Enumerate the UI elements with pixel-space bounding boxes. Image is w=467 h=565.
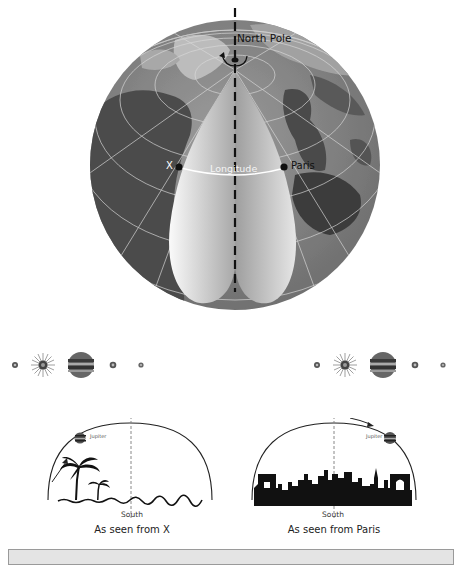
jupiter-icon <box>75 433 87 444</box>
moon-callisto-icon <box>138 362 143 367</box>
caption-paris: As seen from Paris <box>284 524 384 535</box>
jupiter-label: Jupiter <box>90 433 106 439</box>
motion-arrow-icon <box>350 418 370 424</box>
paris-skyline-icon <box>254 468 412 506</box>
jupiter-label: Jupiter <box>366 433 382 439</box>
longitude-label: Longitude <box>210 163 257 174</box>
sky-view-x: Jupiter <box>40 418 220 518</box>
moon-io-icon <box>314 362 320 368</box>
planet-row-right <box>302 350 462 380</box>
sun-flare-icon <box>31 353 55 377</box>
south-label-x: South <box>112 510 152 519</box>
palm-trees-icon <box>60 457 110 500</box>
bottom-panel <box>8 549 454 565</box>
jupiter-icon <box>68 352 94 378</box>
point-x-marker <box>175 163 182 170</box>
jupiter-icon <box>370 352 396 378</box>
moon-europa-icon <box>110 362 117 369</box>
ground-line <box>58 495 202 506</box>
point-paris-label: Paris <box>291 160 315 171</box>
sky-view-paris: Jupiter <box>248 418 428 518</box>
sun-flare-icon <box>333 353 357 377</box>
point-paris-marker <box>280 163 287 170</box>
moon-callisto-icon <box>440 362 445 367</box>
moon-io-icon <box>12 362 18 368</box>
jupiter-icon <box>384 432 396 444</box>
moon-europa-icon <box>412 362 419 369</box>
sky-dome <box>48 423 212 500</box>
point-x-label: X <box>166 160 173 171</box>
north-pole-label: North Pole <box>237 32 291 44</box>
caption-x: As seen from X <box>80 524 184 535</box>
planet-row-left <box>0 350 160 380</box>
globe-diagram: North Pole X Paris Longitude <box>80 0 390 330</box>
south-label-paris: South <box>313 510 353 519</box>
